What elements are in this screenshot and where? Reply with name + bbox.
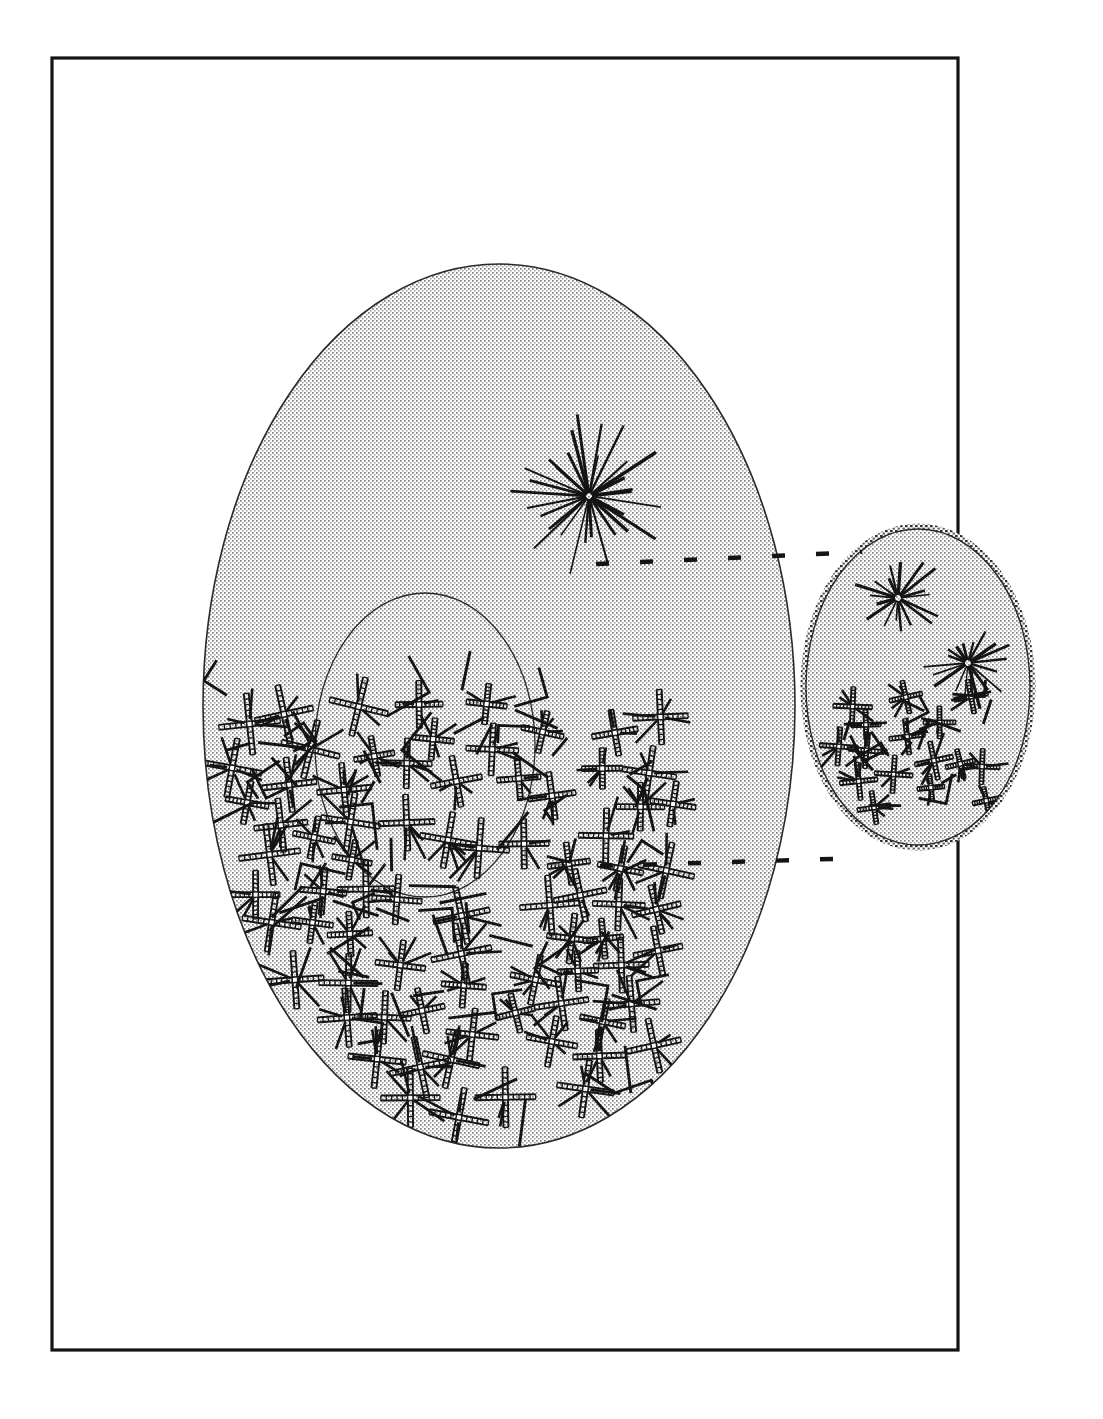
figure-root [0,0,1103,1419]
figure-canvas [0,0,1103,1419]
